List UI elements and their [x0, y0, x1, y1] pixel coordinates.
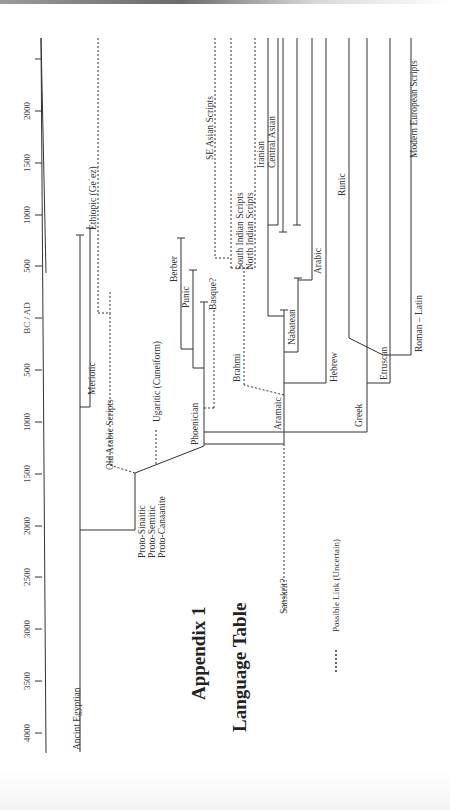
- language-label: Greek: [354, 404, 364, 427]
- language-label: Etruscan: [379, 347, 389, 380]
- axis-tick-label: 1000: [22, 413, 32, 432]
- language-label: Meriotic: [87, 362, 97, 395]
- language-label: Old Arabic Scripts: [105, 399, 115, 470]
- language-label: SE Asian Scripts: [205, 96, 215, 160]
- language-label: Roman – Latin: [414, 295, 424, 352]
- uncertain-links: [98, 38, 336, 672]
- axis-tick-label: 3500: [22, 672, 32, 691]
- axis-tick-label: 1500: [22, 154, 32, 173]
- language-label: Phoenician: [190, 403, 200, 445]
- language-label: Berber: [169, 255, 179, 282]
- axis-tick-label: 3000: [22, 620, 32, 639]
- language-table-title: Language Table: [229, 603, 250, 732]
- language-label: Central Asian: [267, 116, 277, 168]
- language-label: South Indian Scripts: [235, 192, 245, 270]
- axis-tick-label: BC / AD: [22, 302, 32, 334]
- language-label: Sanskrit?: [279, 579, 289, 614]
- axis-tick-label: 500: [22, 363, 32, 377]
- axis-tick-label: 1000: [22, 206, 32, 225]
- axis-tick-label: 2000: [22, 102, 32, 121]
- appendix-title: Appendix 1: [188, 607, 209, 700]
- language-label: Proto-Sinaitic: [137, 505, 147, 558]
- language-label: Iranian: [256, 141, 266, 168]
- axis-ticks: 200015001000500BC / AD500100015002000250…: [22, 59, 42, 742]
- axis-tick-label: 4000: [22, 724, 32, 743]
- language-label: Basque?: [208, 278, 218, 310]
- language-label: Ancint Egyptian: [72, 687, 82, 750]
- language-label: Modern European Scripts: [409, 60, 419, 158]
- language-label: Hebrew: [329, 352, 339, 382]
- language-label: Proto-Semitic: [147, 505, 157, 558]
- language-label: Ugaritic (Cuneiform): [152, 341, 163, 422]
- language-label: Proto-Canaanite: [157, 496, 167, 558]
- language-label: North Indian Scripts: [245, 192, 255, 270]
- language-label: Punic: [181, 286, 191, 308]
- language-label: Ethiopic (Ge´ez): [88, 166, 99, 230]
- axis-tick-label: 500: [22, 259, 32, 273]
- language-tree-diagram: 200015001000500BC / AD500100015002000250…: [0, 0, 450, 810]
- language-label: Aramaic: [273, 397, 283, 430]
- axis-tick-label: 2500: [22, 568, 32, 587]
- legend-label: Possible Link (Uncertain): [331, 539, 341, 632]
- language-label: Arabic: [313, 248, 323, 274]
- axis-tick-label: 2000: [22, 517, 32, 536]
- language-label: Nabatean: [287, 309, 297, 345]
- legend: Possible Link (Uncertain): [331, 539, 341, 672]
- language-label: Runic: [337, 173, 347, 196]
- language-label: Brahmi: [232, 353, 242, 382]
- title-block: Appendix 1 Language Table: [188, 603, 250, 732]
- axis-tick-label: 1500: [22, 465, 32, 484]
